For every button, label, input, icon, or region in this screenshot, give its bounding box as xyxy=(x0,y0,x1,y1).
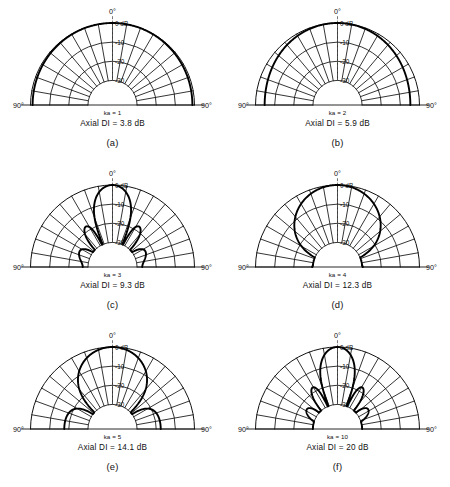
right-angle-label: 90° xyxy=(426,263,437,272)
grid-spoke xyxy=(342,24,352,81)
radial-tick-label: -20 xyxy=(115,220,125,227)
right-angle-label: 90° xyxy=(201,263,212,272)
grid-spoke xyxy=(131,214,175,251)
right-angle-label: 90° xyxy=(201,425,212,434)
ka-label: ka = 1 xyxy=(0,110,225,116)
grid-spoke xyxy=(117,24,127,81)
grid-spoke xyxy=(257,253,314,263)
axial-di-label: Axial DI = 14.1 dB xyxy=(0,444,225,452)
radial-tick-label: 0 dB xyxy=(340,182,353,189)
grid-spoke xyxy=(50,214,94,251)
polar-grid xyxy=(247,340,429,429)
grid-spoke xyxy=(275,52,319,89)
radial-tick-label: -10 xyxy=(340,39,350,46)
grid-spoke xyxy=(285,204,322,248)
axial-di-label: Axial DI = 12.3 dB xyxy=(225,282,450,290)
radial-tick-label: -20 xyxy=(340,382,350,389)
beam-pattern-panel: 0 dB-10-20-300°90°90°ka = 1Axial DI = 3.… xyxy=(0,0,225,162)
grid-spoke xyxy=(131,376,175,413)
radial-tick-label: -10 xyxy=(340,201,350,208)
beam-pattern-panel: 0 dB-10-20-300°90°90°ka = 5Axial DI = 14… xyxy=(0,324,225,487)
grid-spoke xyxy=(137,91,194,101)
grid-spoke xyxy=(128,204,165,248)
top-angle-label: 0° xyxy=(334,331,341,340)
radial-tick-label: 0 dB xyxy=(340,344,353,351)
ka-label: ka = 10 xyxy=(225,434,450,440)
beam-pattern-panel: 0 dB-10-20-300°90°90°ka = 2Axial DI = 5.… xyxy=(225,0,450,162)
radial-tick-label: -30 xyxy=(115,401,125,408)
grid-spoke xyxy=(32,91,89,101)
grid-spoke xyxy=(60,204,97,248)
grid-spoke xyxy=(342,186,352,243)
radial-tick-label: 0 dB xyxy=(115,20,128,27)
panel-index-label: (d) xyxy=(225,300,450,309)
grid-spoke xyxy=(353,42,390,86)
grid-spoke xyxy=(50,376,94,413)
grid-spoke xyxy=(131,52,175,89)
radial-tick-label: -10 xyxy=(115,39,125,46)
left-angle-label: 90° xyxy=(238,263,249,272)
polar-grid xyxy=(22,340,204,429)
left-angle-label: 90° xyxy=(238,425,249,434)
grid-spoke xyxy=(356,52,400,89)
radial-tick-label: -20 xyxy=(340,220,350,227)
polar-grid xyxy=(247,178,429,267)
ka-label: ka = 4 xyxy=(225,272,450,278)
grid-spoke xyxy=(362,415,419,425)
top-angle-label: 0° xyxy=(109,7,116,16)
panel-index-label: (e) xyxy=(0,462,225,471)
grid-spoke xyxy=(257,415,314,425)
radial-tick-label: 0 dB xyxy=(115,344,128,351)
grid-spoke xyxy=(362,253,419,263)
axial-di-label: Axial DI = 9.3 dB xyxy=(0,282,225,290)
left-angle-label: 90° xyxy=(13,101,24,110)
axial-di-label: Axial DI = 3.8 dB xyxy=(0,120,225,128)
panel-index-label: (f) xyxy=(225,462,450,471)
radial-tick-label: -30 xyxy=(340,401,350,408)
polar-grid xyxy=(247,16,429,105)
radial-tick-label: -20 xyxy=(115,58,125,65)
grid-spoke xyxy=(98,348,108,405)
top-angle-label: 0° xyxy=(109,169,116,178)
grid-spoke xyxy=(323,24,333,81)
right-angle-label: 90° xyxy=(426,101,437,110)
grid-spoke xyxy=(98,24,108,81)
grid-spoke xyxy=(50,52,94,89)
grid-spoke xyxy=(117,348,127,405)
radial-tick-label: -30 xyxy=(340,77,350,84)
grid-spoke xyxy=(32,415,89,425)
beam-pattern-panel: 0 dB-10-20-300°90°90°ka = 3Axial DI = 9.… xyxy=(0,162,225,324)
radial-tick-label: 0 dB xyxy=(115,182,128,189)
beam-pattern-figure: 0 dB-10-20-300°90°90°ka = 1Axial DI = 3.… xyxy=(0,0,450,487)
polar-grid xyxy=(22,178,204,267)
top-angle-label: 0° xyxy=(334,7,341,16)
grid-spoke xyxy=(356,214,400,251)
top-angle-label: 0° xyxy=(334,169,341,178)
right-angle-label: 90° xyxy=(201,101,212,110)
ka-label: ka = 3 xyxy=(0,272,225,278)
radial-tick-label: -20 xyxy=(340,58,350,65)
polar-grid xyxy=(22,16,204,105)
radial-tick-label: -20 xyxy=(115,382,125,389)
radial-tick-label: -30 xyxy=(340,239,350,246)
radial-tick-label: -30 xyxy=(115,239,125,246)
grid-spoke xyxy=(275,214,319,251)
top-angle-label: 0° xyxy=(109,331,116,340)
grid-spoke xyxy=(323,186,333,243)
left-angle-label: 90° xyxy=(13,263,24,272)
axial-di-label: Axial DI = 20 dB xyxy=(225,444,450,452)
left-angle-label: 90° xyxy=(238,101,249,110)
right-angle-label: 90° xyxy=(426,425,437,434)
grid-spoke xyxy=(60,42,97,86)
radial-tick-label: -30 xyxy=(115,77,125,84)
grid-spoke xyxy=(128,42,165,86)
grid-spoke xyxy=(353,204,390,248)
beam-pattern-panel: 0 dB-10-20-300°90°90°ka = 4Axial DI = 12… xyxy=(225,162,450,324)
axial-di-label: Axial DI = 5.9 dB xyxy=(225,120,450,128)
grid-spoke xyxy=(285,42,322,86)
ka-label: ka = 2 xyxy=(225,110,450,116)
radial-tick-label: -10 xyxy=(115,201,125,208)
radial-tick-label: 0 dB xyxy=(340,20,353,27)
panel-index-label: (a) xyxy=(0,138,225,147)
panel-index-label: (c) xyxy=(0,300,225,309)
